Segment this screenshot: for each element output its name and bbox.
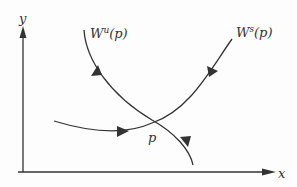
stable-label-arg: (p) bbox=[254, 25, 272, 40]
x-axis bbox=[18, 169, 276, 176]
stable-manifold-curve bbox=[54, 39, 232, 137]
stable-label-base: W bbox=[236, 25, 249, 40]
y-axis bbox=[20, 26, 27, 172]
x-axis-label: x bbox=[278, 167, 285, 180]
unstable-manifold-curve bbox=[84, 30, 193, 165]
y-axis-label: y bbox=[19, 12, 26, 25]
unstable-manifold-label: Wu(p) bbox=[90, 26, 128, 40]
unstable-label-base: W bbox=[90, 26, 103, 41]
unstable-label-arg: (p) bbox=[109, 26, 127, 41]
fixed-point-label: p bbox=[148, 131, 156, 144]
stable-manifold-label: Ws(p) bbox=[236, 25, 272, 39]
manifold-diagram: y x Wu(p) Ws(p) p bbox=[0, 0, 297, 187]
